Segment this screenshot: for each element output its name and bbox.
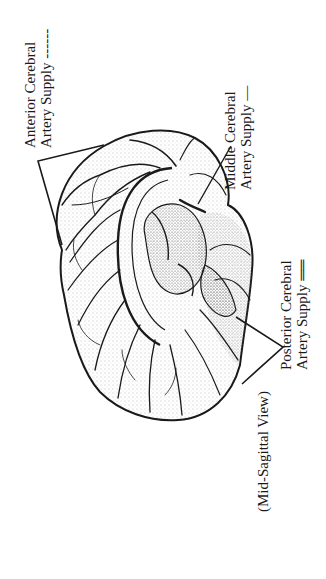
posterior-cerebral-label: Posterior Cerebral Artery Supply ══ [278,260,310,370]
middle-label-line1: Middle Cerebral [222,86,238,190]
posterior-label-line2: Artery Supply [294,285,310,370]
view-label: (Mid-Sagittal View) [255,391,271,512]
anterior-label-line2: Artery Supply [38,63,54,148]
mid-sagittal-view-text: (Mid-Sagittal View) [255,391,271,512]
middle-cerebral-label: Middle Cerebral Artery Supply — [222,86,254,190]
middle-label-line2: Artery Supply [238,105,254,190]
solid-legend-icon: — [238,86,254,101]
dashed-legend-icon: ------ [38,29,54,59]
anterior-cerebral-label: Anterior Cerebral Artery Supply ------ [22,29,54,148]
posterior-label-line1: Posterior Cerebral [278,260,294,370]
double-line-legend-icon: ══ [294,260,310,281]
anterior-label-line1: Anterior Cerebral [22,29,38,148]
